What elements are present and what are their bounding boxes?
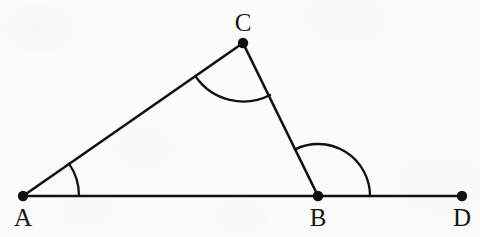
vertex-label-A: A (14, 205, 32, 230)
geometry-figure: A B C D (0, 0, 480, 237)
vertex-label-D: D (453, 205, 471, 230)
vertex-dot-D (457, 191, 467, 201)
angle-arc-A (69, 164, 79, 196)
vertex-dot-C (238, 38, 248, 48)
vertex-label-C: C (235, 10, 252, 35)
vertex-label-B: B (310, 205, 327, 230)
vertex-dot-A (18, 191, 28, 201)
vertex-dot-B (313, 191, 323, 201)
segment-AC (23, 43, 243, 196)
segment-CB (243, 43, 318, 196)
geometry-canvas (0, 0, 480, 237)
angle-arc-C (196, 77, 270, 102)
